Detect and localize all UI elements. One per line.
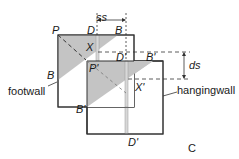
point-P-label: P (52, 25, 59, 36)
point-X-label: X (86, 42, 93, 53)
point-B-prime-bottom-label: B' (76, 104, 85, 115)
point-D-prime-bottom-label: D' (128, 137, 138, 148)
point-B-lower-label: B (47, 70, 54, 81)
point-B-prime-top-label: B' (146, 52, 155, 63)
point-P-prime-label: P' (89, 63, 98, 74)
point-X-prime-label: X' (135, 82, 144, 93)
point-B-label: B (115, 25, 122, 36)
hangingwall-label: hangingwall (177, 85, 235, 96)
ss-label: ss (96, 12, 107, 23)
panel-label: C (188, 143, 196, 154)
ds-label: ds (189, 60, 201, 71)
point-D-label: D (87, 25, 95, 36)
point-D-prime-top-label: D' (116, 52, 126, 63)
footwall-leader (48, 82, 57, 86)
hangingwall-leader (163, 92, 177, 96)
footwall-label: footwall (8, 86, 45, 97)
